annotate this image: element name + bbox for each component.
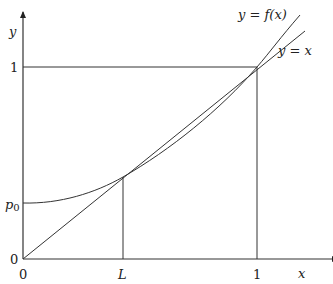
- identity-line: [23, 31, 305, 259]
- y-tick-0: 0: [10, 252, 18, 267]
- x-tick-0: 0: [19, 267, 27, 282]
- y-tick-p0: p0: [5, 197, 20, 213]
- p0-subscript: 0: [13, 202, 19, 213]
- f-curve: [23, 15, 300, 203]
- x-tick-1: 1: [253, 267, 261, 282]
- x-axis-label: x: [298, 266, 306, 281]
- x-tick-L: L: [117, 267, 127, 282]
- y-axis-label: y: [8, 24, 17, 39]
- fixed-point-diagram: y = f(x) y = x y x 1 p0 0 0 L 1: [0, 0, 333, 284]
- identity-label: y = x: [277, 43, 313, 58]
- y-tick-1: 1: [10, 60, 18, 75]
- f-curve-label: y = f(x): [237, 7, 287, 22]
